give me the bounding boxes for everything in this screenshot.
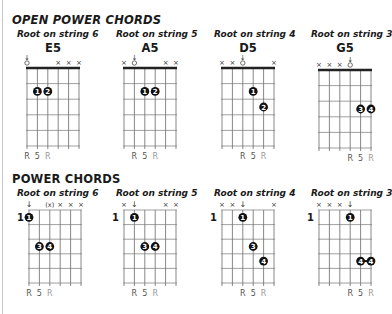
finger-number: 1 (348, 214, 353, 222)
muted-string-icon: × (316, 201, 322, 209)
interval-label: R (132, 152, 138, 161)
interval-label: 5 (251, 289, 256, 298)
interval-label: 5 (142, 289, 147, 298)
finger-number: 1 (240, 214, 245, 222)
start-fret-label: 1 (307, 212, 314, 223)
finger-number: 3 (142, 243, 147, 251)
muted-string-icon: × (326, 61, 332, 69)
finger-number: 4 (47, 243, 52, 251)
muted-string-icon: × (337, 201, 343, 209)
finger-number: 1 (27, 214, 32, 222)
muted-string-icon: × (76, 59, 82, 67)
interval-label: R (47, 289, 53, 298)
finger-number: 1 (132, 214, 137, 222)
muted-string-icon: × (68, 201, 74, 209)
interval-label: R (152, 289, 158, 298)
interval-label: R (261, 289, 267, 298)
interval-label: 5 (142, 152, 147, 161)
muted-string-icon: × (326, 201, 332, 209)
muted-string-icon: × (229, 201, 235, 209)
interval-label: 5 (358, 154, 363, 163)
finger-number: 2 (261, 104, 266, 112)
muted-string-icon: × (229, 59, 235, 67)
interval-label: R (347, 154, 353, 163)
muted-string-icon: × (66, 59, 72, 67)
muted-string-icon: × (271, 59, 277, 67)
finger-number: 3 (251, 243, 256, 251)
finger-number: 2 (153, 88, 158, 96)
finger-number: 4 (369, 258, 374, 266)
muted-string-icon: × (219, 201, 225, 209)
interval-label: R (132, 289, 138, 298)
interval-label: R (26, 289, 32, 298)
interval-label: 5 (37, 289, 42, 298)
root-arrow-icon: ↓ (240, 54, 246, 62)
muted-string-icon: × (121, 59, 127, 67)
muted-string-icon: × (173, 201, 179, 209)
muted-string-icon: × (163, 201, 169, 209)
finger-number: 1 (142, 88, 147, 96)
root-arrow-icon: ↓ (347, 56, 353, 64)
start-fret-label: 1 (210, 212, 217, 223)
muted-string-icon: × (57, 201, 63, 209)
muted-string-icon: × (163, 59, 169, 67)
root-arrow-icon: ↓ (24, 54, 30, 62)
finger-number: 4 (369, 106, 374, 114)
interval-label: R (261, 152, 267, 161)
interval-label: R (240, 289, 246, 298)
muted-string-icon: × (219, 59, 225, 67)
interval-label: 5 (358, 289, 363, 298)
interval-label: R (347, 289, 353, 298)
muted-string-icon: × (173, 59, 179, 67)
muted-string-icon: × (55, 59, 61, 67)
finger-number: 3 (358, 106, 363, 114)
root-arrow-icon: ↓ (239, 200, 246, 209)
interval-label: R (152, 152, 158, 161)
muted-string-icon: × (316, 61, 322, 69)
interval-label: R (24, 152, 30, 161)
root-arrow-icon: ↓ (26, 200, 33, 209)
finger-number: 4 (153, 243, 158, 251)
root-arrow-icon: ↓ (347, 200, 354, 209)
interval-label: R (368, 154, 374, 163)
optional-mute-icon: (x) (45, 201, 54, 209)
interval-label: R (240, 152, 246, 161)
root-arrow-icon: ↓ (131, 200, 138, 209)
muted-string-icon: × (121, 201, 127, 209)
interval-label: R (45, 152, 51, 161)
finger-number: 2 (45, 88, 50, 96)
finger-number: 3 (37, 243, 42, 251)
finger-number: 1 (35, 88, 40, 96)
muted-string-icon: × (337, 61, 343, 69)
start-fret-label: 1 (112, 212, 119, 223)
root-arrow-icon: ↓ (131, 54, 137, 62)
muted-string-icon: × (271, 201, 277, 209)
finger-number: 4 (358, 258, 363, 266)
interval-label: R (368, 289, 374, 298)
finger-number: 1 (251, 88, 256, 96)
muted-string-icon: × (78, 201, 84, 209)
start-fret-label: 1 (17, 212, 24, 223)
interval-label: 5 (251, 152, 256, 161)
interval-label: 5 (35, 152, 40, 161)
finger-number: 4 (261, 258, 266, 266)
